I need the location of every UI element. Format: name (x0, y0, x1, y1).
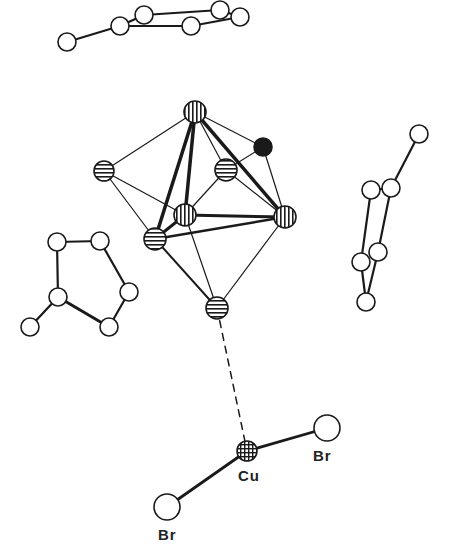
atom-r1a-icon (58, 33, 76, 51)
atom-layer (21, 1, 428, 520)
atom-r2f-icon (357, 293, 375, 311)
atom-r1d-icon (182, 17, 200, 35)
atom-r3d-icon (49, 288, 67, 306)
atom-r3b-icon (91, 232, 109, 250)
atom-r2d-icon (369, 243, 387, 261)
atom-cu-icon (237, 441, 257, 461)
atom-r1b-icon (111, 17, 129, 35)
bond-c-top-c-left (104, 112, 195, 171)
atom-c-top-icon (184, 101, 206, 123)
label-br-left: Br (158, 526, 177, 543)
bond-c-llow-c-bottom (155, 239, 217, 308)
atom-br-l-icon (154, 494, 180, 520)
label-cu: Cu (238, 467, 260, 484)
molecular-structure-diagram (0, 0, 451, 555)
atom-c-center-icon (174, 204, 196, 226)
atom-r1f-icon (231, 8, 249, 26)
atom-br-r-icon (314, 415, 340, 441)
bond-c-center-c-right (185, 215, 285, 217)
atom-c-bottom-icon (206, 297, 228, 319)
atom-r2b-icon (362, 181, 380, 199)
atom-c-black-icon (254, 138, 272, 156)
label-br-right: Br (313, 447, 332, 464)
atom-c-llow-icon (144, 228, 166, 250)
bond-c-right-c-bottom (217, 217, 285, 308)
atom-r3e-icon (100, 318, 118, 336)
atom-r3f-icon (21, 318, 39, 336)
atom-r1e-icon (211, 1, 229, 19)
atom-r3a-icon (48, 233, 66, 251)
atom-r2c-icon (382, 179, 400, 197)
atom-r2e-icon (352, 253, 370, 271)
bond-r1c-r1e (144, 10, 220, 15)
atom-c-left-icon (94, 161, 114, 181)
bond-c-left-c-llow (104, 171, 155, 239)
atom-r3c-icon (120, 283, 138, 301)
atom-r2a-icon (410, 125, 428, 143)
bond-c-bottom-cu (217, 308, 247, 451)
atom-r1c-icon (135, 6, 153, 24)
bond-cu-br-l (167, 451, 247, 507)
bond-c-top-c-right (195, 112, 285, 217)
atom-c-right-icon (274, 206, 296, 228)
atom-c-upmid-icon (215, 159, 237, 181)
